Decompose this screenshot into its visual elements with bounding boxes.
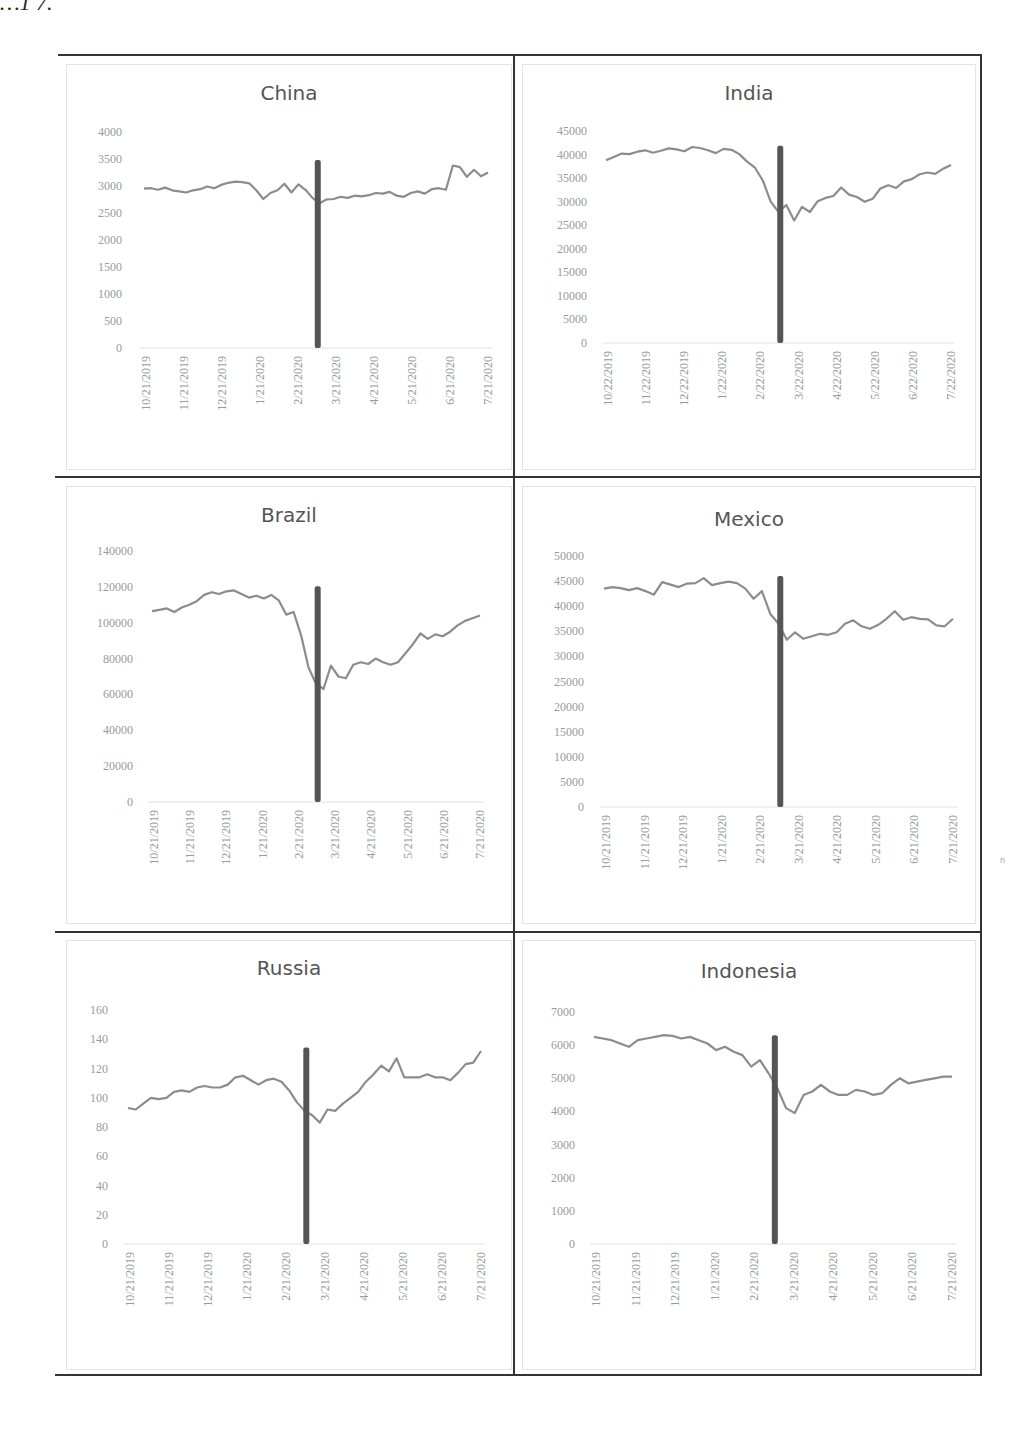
chart-title: Russia: [67, 956, 511, 980]
table-border-top: [58, 54, 982, 56]
chart-frame: India: [522, 64, 976, 470]
chart-title: China: [67, 81, 511, 105]
chart-frame: China: [66, 64, 512, 470]
table-divider-center: [513, 54, 515, 1376]
chart-title: Indonesia: [523, 959, 975, 983]
chart-title: Brazil: [67, 503, 511, 527]
chart-title: Mexico: [523, 507, 975, 531]
table-border-row2: [55, 931, 982, 933]
table-border-bottom: [55, 1374, 982, 1376]
table-border-row1: [55, 476, 982, 478]
table-border-right: [980, 54, 982, 1376]
chart-frame: Indonesia: [522, 940, 976, 1370]
side-mark: n: [1000, 855, 1005, 865]
chart-title: India: [523, 81, 975, 105]
chart-frame: Mexico: [522, 486, 976, 924]
chart-frame: Russia: [66, 940, 512, 1370]
chart-frame: Brazil: [66, 486, 512, 924]
